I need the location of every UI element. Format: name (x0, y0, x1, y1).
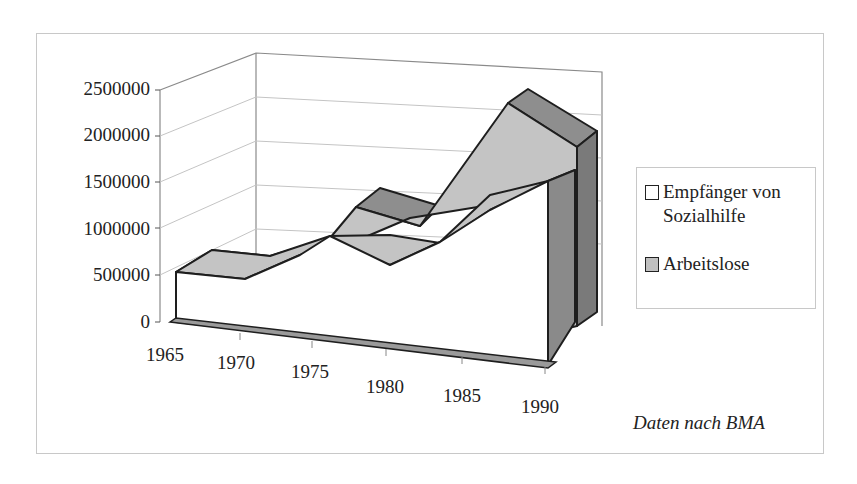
x-tick-label: 1970 (217, 352, 255, 374)
legend-item-arbeitslose: Arbeitslose (645, 252, 750, 276)
x-tick-label: 1975 (291, 361, 329, 383)
y-tick-label: 1000000 (30, 218, 150, 240)
legend-item-sozialhilfe: Empfänger von Sozialhilfe (645, 180, 781, 228)
x-tick-label: 1985 (443, 385, 481, 407)
x-tick-label: 1980 (366, 376, 404, 398)
source-note: Daten nach BMA (633, 412, 765, 434)
legend-swatch-gray (645, 257, 659, 272)
legend-label: Sozialhilfe (663, 205, 745, 226)
y-tick-label: 1500000 (30, 171, 150, 193)
y-tick-label: 0 (30, 311, 150, 333)
chart-legend: Empfänger von Sozialhilfe Arbeitslose (636, 167, 816, 309)
y-tick-label: 500000 (30, 264, 150, 286)
x-tick-label: 1965 (146, 344, 184, 366)
x-tick-label: 1990 (521, 396, 559, 418)
y-tick-label: 2000000 (30, 124, 150, 146)
legend-label: Arbeitslose (663, 252, 750, 276)
legend-swatch-white (645, 185, 659, 200)
legend-label: Empfänger von (663, 181, 781, 202)
y-tick-label: 2500000 (30, 78, 150, 100)
